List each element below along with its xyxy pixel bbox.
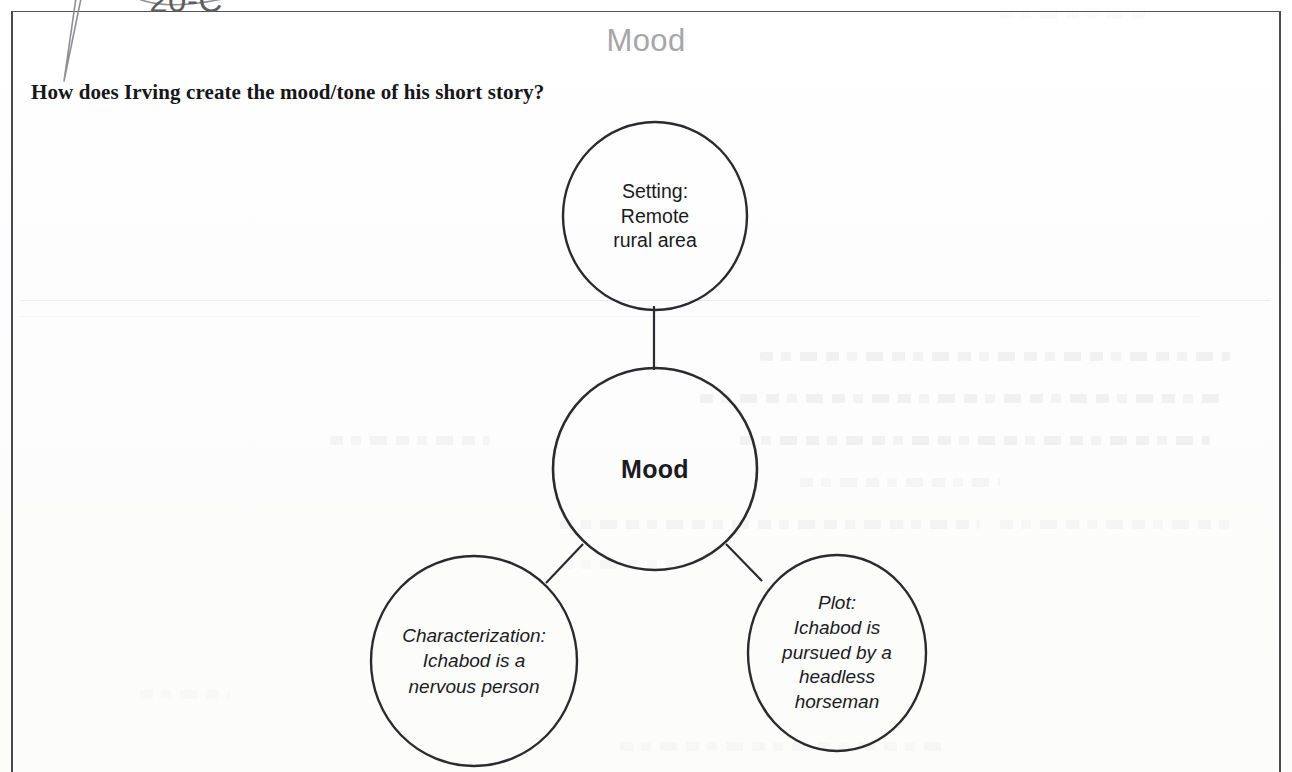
page-title: Mood — [0, 23, 1292, 59]
worksheet-page: 20-C Mood How does Irving create the moo… — [0, 0, 1292, 772]
prompt-question: How does Irving create the mood/tone of … — [31, 80, 544, 105]
node-mood: Mood — [553, 368, 757, 570]
node-plot-label: Plot:Ichabod ispursued by aheadlesshorse… — [776, 591, 898, 714]
node-setting-label: Setting:Remoterural area — [607, 179, 702, 254]
node-characterization-label: Characterization:Ichabod is anervous per… — [396, 623, 552, 699]
node-mood-label: Mood — [615, 453, 695, 485]
node-plot: Plot:Ichabod ispursued by aheadlesshorse… — [748, 555, 926, 751]
page-number-label: 20-C — [62, 0, 310, 20]
node-setting: Setting:Remoterural area — [563, 122, 747, 310]
node-characterization: Characterization:Ichabod is anervous per… — [371, 556, 577, 766]
